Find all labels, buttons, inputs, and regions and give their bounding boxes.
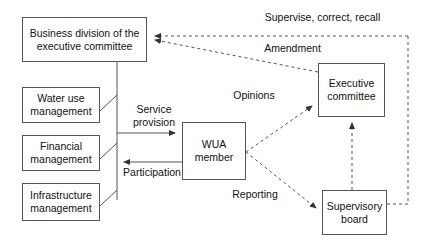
link-infrastructure-to-trunk <box>100 190 117 206</box>
label-reporting: Reporting <box>228 188 282 201</box>
node-executive-committee[interactable]: Executive committee <box>318 63 385 117</box>
link-financial-to-trunk <box>100 143 117 159</box>
node-supervisory-board[interactable]: Supervisory board <box>322 190 387 235</box>
link-water-use-to-trunk <box>100 95 117 111</box>
node-financial-management[interactable]: Financial management <box>22 135 100 171</box>
label-supervise-correct-recall: Supervise, correct, recall <box>258 11 387 24</box>
node-business-division[interactable]: Business division of the executive commi… <box>22 17 147 62</box>
label-amendment: Amendment <box>258 42 327 55</box>
node-wua-member[interactable]: WUA member <box>182 122 246 180</box>
label-service-provision: Service provision <box>125 103 183 129</box>
node-infrastructure-management[interactable]: Infrastructure management <box>22 183 100 221</box>
label-participation: Participation <box>118 166 186 179</box>
edge-supervise-correct-recall-rail <box>387 36 408 204</box>
node-water-use-management[interactable]: Water use management <box>22 87 100 123</box>
label-opinions: Opinions <box>228 89 280 102</box>
edge-opinions <box>246 106 312 152</box>
diagram-canvas: Business division of the executive commi… <box>0 0 425 242</box>
